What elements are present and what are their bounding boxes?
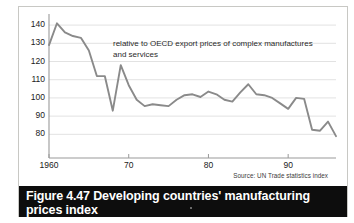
- x-tick-label: 70: [116, 161, 142, 170]
- y-tick-label: 140: [19, 20, 45, 29]
- y-tick-label: 130: [19, 38, 45, 47]
- x-tick-label: 90: [275, 161, 301, 170]
- figure-caption: Figure 4.47 Developing countries' manufa…: [26, 189, 340, 217]
- y-tick-label: 100: [19, 93, 45, 102]
- chart-annotation: relative to OECD export prices of comple…: [113, 38, 328, 60]
- figure-caption-bar: Figure 4.47 Developing countries' manufa…: [19, 186, 347, 217]
- figure-number: Figure 4.47: [26, 189, 90, 203]
- y-tick-label: 110: [19, 75, 45, 84]
- y-tick-label: 80: [19, 129, 45, 138]
- figure-container: 8090100110120130140 1960708090 relative …: [0, 0, 354, 223]
- caption-decoration-dot: [190, 207, 192, 209]
- x-tick-label: 1960: [36, 161, 62, 170]
- y-tick-label: 120: [19, 57, 45, 66]
- x-tick-label: 80: [195, 161, 221, 170]
- axis-lines: [49, 14, 336, 158]
- source-note: Source: UN Trade statistics index: [233, 172, 328, 179]
- y-tick-label: 90: [19, 111, 45, 120]
- x-tick-marks: [49, 154, 288, 158]
